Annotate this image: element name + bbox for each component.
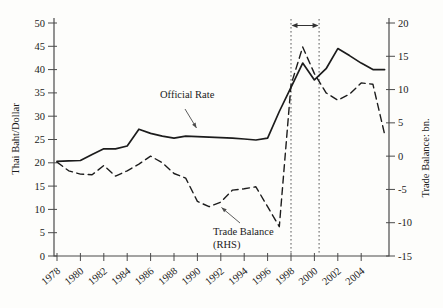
x-axis-tick-label: 1986 <box>133 265 156 287</box>
period-arrow-left-head <box>292 23 298 28</box>
x-axis-tick-label: 1990 <box>180 265 203 287</box>
left-axis-tick-label: 25 <box>35 134 46 145</box>
x-axis-tick-label: 1984 <box>109 265 133 287</box>
right-axis-tick-label: -5 <box>398 184 407 195</box>
official-rate-line <box>57 49 385 162</box>
period-arrow-right-head <box>313 23 319 28</box>
left-axis-tick-label: 20 <box>35 157 46 168</box>
right-axis-tick-label: 5 <box>398 117 403 128</box>
x-axis-tick-label: 1992 <box>203 265 226 287</box>
right-axis-tick-label: 20 <box>398 18 409 29</box>
left-axis-tick-label: 30 <box>35 111 46 122</box>
left-axis-tick-label: 10 <box>35 204 46 215</box>
left-axis-tick-label: 5 <box>40 227 45 238</box>
x-axis-tick-label: 1988 <box>156 265 179 287</box>
left-axis-tick-label: 40 <box>35 64 46 75</box>
right-axis-tick-label: 15 <box>398 51 409 62</box>
official-rate-annotation: Official Rate <box>160 89 214 102</box>
x-axis-tick-label: 2000 <box>297 265 320 287</box>
x-axis-tick-label: 1978 <box>39 265 62 287</box>
left-axis-title: Thai Baht/Dollar <box>10 103 21 174</box>
left-axis-tick-label: 0 <box>40 251 45 262</box>
left-axis-tick-label: 15 <box>35 181 46 192</box>
left-axis-tick-label: 35 <box>35 87 46 98</box>
right-axis-tick-label: 0 <box>398 151 403 162</box>
right-axis-title: Trade Balance: bn. <box>420 118 431 197</box>
right-axis-tick-label: -10 <box>398 217 412 228</box>
chart-figure: 05101520253035404550-15-10-5051015201978… <box>0 0 443 308</box>
line-chart-canvas: 05101520253035404550-15-10-5051015201978… <box>0 0 443 308</box>
right-axis-tick-label: -15 <box>398 251 412 262</box>
x-axis-tick-label: 1980 <box>63 265 86 287</box>
x-axis-tick-label: 2004 <box>343 265 367 287</box>
left-axis-tick-label: 45 <box>35 41 46 52</box>
x-axis-tick-label: 1982 <box>86 265 109 287</box>
x-axis-tick-label: 2002 <box>320 265 343 287</box>
right-axis-tick-label: 10 <box>398 84 409 95</box>
official-rate-arrow-head <box>192 123 196 128</box>
left-axis-tick-label: 50 <box>35 18 46 29</box>
trade-balance-annotation: Trade Balance (RHS) <box>213 226 274 251</box>
x-axis-tick-label: 1998 <box>273 265 296 287</box>
x-axis-tick-label: 1996 <box>250 265 273 287</box>
trade-balance-annotation-line2: (RHS) <box>213 239 274 252</box>
trade-balance-annotation-line1: Trade Balance <box>213 226 274 239</box>
x-axis-tick-label: 1994 <box>226 265 250 287</box>
